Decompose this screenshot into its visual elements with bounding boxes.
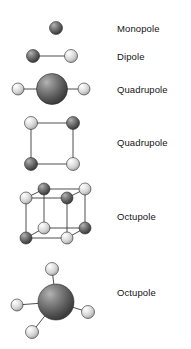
- sphere-dark: [25, 158, 38, 171]
- multipole-row-monopole: [50, 22, 63, 35]
- sphere-dark: [27, 50, 40, 63]
- sphere-light: [78, 83, 90, 95]
- row-label-quadrupole-square: Quadrupole: [117, 137, 168, 148]
- sphere-light: [65, 50, 78, 63]
- sphere-dark: [50, 22, 63, 35]
- row-label-octupole-cube: Octupole: [117, 211, 156, 222]
- sphere-dark: [20, 232, 32, 244]
- multipole-diagram: [0, 0, 191, 349]
- sphere-dark: [37, 74, 68, 105]
- sphere-light: [46, 263, 59, 276]
- sphere-light: [20, 192, 32, 204]
- sphere-light: [79, 183, 91, 195]
- sphere-light: [82, 306, 95, 319]
- row-label-monopole: Monopole: [117, 23, 160, 34]
- sphere-dark: [38, 183, 50, 195]
- sphere-light: [67, 158, 80, 171]
- sphere-light: [11, 299, 23, 311]
- sphere-dark: [38, 284, 74, 320]
- row-label-octupole-tetrahedral: Octupole: [117, 287, 156, 298]
- sphere-dark: [61, 192, 73, 204]
- sphere-light: [38, 222, 50, 234]
- row-label-dipole: Dipole: [117, 51, 145, 62]
- sphere-light: [12, 83, 24, 95]
- row-label-quadrupole-linear: Quadrupole: [117, 84, 168, 95]
- sphere-light: [25, 117, 38, 130]
- sphere-dark: [79, 222, 91, 234]
- sphere-light: [26, 326, 39, 339]
- sphere-dark: [67, 117, 80, 130]
- sphere-light: [61, 232, 73, 244]
